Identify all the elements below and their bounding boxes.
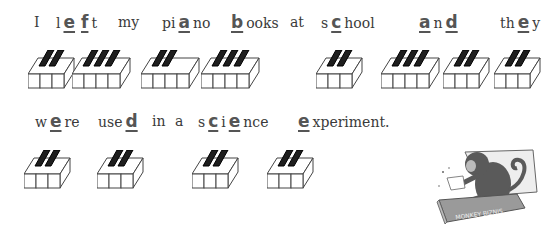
word-i: I xyxy=(34,14,40,30)
word-used: used xyxy=(98,111,141,131)
piano-keyboard-icon xyxy=(28,50,76,90)
word-text: in xyxy=(152,113,166,129)
piano-keyboard-icon xyxy=(443,50,491,90)
word-text: ooks xyxy=(246,15,279,31)
word-text: pi xyxy=(162,15,175,31)
note-letter: b xyxy=(228,12,246,32)
word-at: at xyxy=(290,14,304,30)
word-were: were xyxy=(35,111,80,131)
word-and: and xyxy=(416,12,461,32)
word-books: books xyxy=(228,12,279,32)
word-text: re xyxy=(65,114,80,130)
note-letter: c xyxy=(328,12,344,32)
piano-keyboard-icon xyxy=(141,50,201,90)
word-school: school xyxy=(321,12,375,32)
note-letter: a xyxy=(416,12,433,32)
note-letter: e xyxy=(515,12,533,32)
word-text: hool xyxy=(344,15,374,31)
note-letter: d xyxy=(443,12,461,32)
note-letter: f xyxy=(78,12,91,32)
piano-keyboard-icon xyxy=(24,150,72,190)
note-letter: c xyxy=(205,111,221,131)
word-they: they xyxy=(500,12,540,32)
piano-keyboard-icon xyxy=(267,150,315,190)
word-text: my xyxy=(118,14,139,30)
word-text: nce xyxy=(243,114,268,130)
word-text: use xyxy=(98,114,123,130)
piano-keyboard-icon xyxy=(97,150,145,190)
piano-keyboard-icon xyxy=(201,50,261,90)
word-text: w xyxy=(35,114,47,130)
word-text: th xyxy=(500,15,515,31)
note-letter: e xyxy=(295,111,313,131)
piano-keyboard-icon xyxy=(494,50,542,90)
word-text: at xyxy=(290,14,304,30)
note-letter: d xyxy=(123,111,141,131)
word-in: in xyxy=(152,113,166,129)
note-letter: e xyxy=(47,111,65,131)
piano-keyboard-icon xyxy=(381,50,441,90)
word-piano: piano xyxy=(162,12,210,32)
word-text: n xyxy=(433,15,442,31)
word-text: a xyxy=(175,113,183,129)
word-my: my xyxy=(118,14,139,30)
piano-keyboard-icon xyxy=(72,50,132,90)
note-letter: a xyxy=(175,12,192,32)
word-science: science xyxy=(198,111,268,131)
word-a: a xyxy=(175,113,183,129)
word-text: xperiment. xyxy=(313,114,390,130)
note-letter: e xyxy=(226,111,244,131)
word-left: left xyxy=(56,12,97,32)
piano-keyboard-icon xyxy=(316,50,364,90)
word-text: t xyxy=(91,15,97,31)
note-letter: e xyxy=(60,12,78,32)
word-text: no xyxy=(193,15,210,31)
monkey-in-box-icon: MONKEY BIZNIS xyxy=(425,142,545,224)
word-experiment: experiment. xyxy=(295,111,390,131)
word-text: y xyxy=(532,15,540,31)
word-text: I xyxy=(34,14,40,30)
piano-keyboard-icon xyxy=(192,150,240,190)
